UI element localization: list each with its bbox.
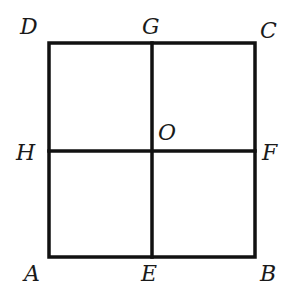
- label-c: C: [260, 18, 277, 43]
- label-d: D: [19, 14, 38, 39]
- label-f: F: [261, 140, 278, 165]
- label-g: G: [142, 14, 160, 39]
- label-h: H: [15, 140, 36, 165]
- label-a: A: [22, 261, 40, 286]
- label-o: O: [158, 120, 176, 145]
- label-e: E: [140, 261, 157, 286]
- label-b: B: [259, 261, 276, 286]
- square-diagram: D G C H O F A E B: [0, 0, 296, 307]
